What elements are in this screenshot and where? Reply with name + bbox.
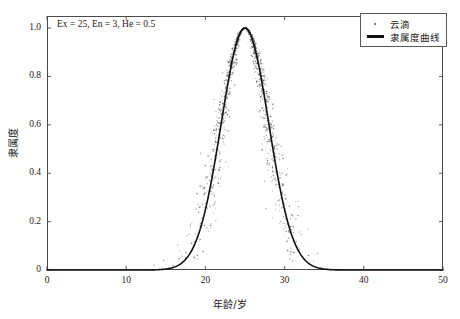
x-tick-label: 0 — [27, 275, 67, 285]
x-axis-title: 年龄/岁 — [0, 296, 460, 311]
line-marker-icon — [365, 35, 385, 37]
chart-canvas — [0, 0, 460, 319]
x-tick-label: 50 — [423, 275, 460, 285]
y-tick-label: 0.8 — [7, 70, 41, 80]
y-tick-label: 1.0 — [7, 22, 41, 32]
y-axis-title: 隶属度 — [5, 113, 20, 173]
cloud-drops-scatter — [153, 27, 334, 269]
legend-label-cloud-drops: 云滴 — [390, 17, 410, 31]
legend-item-membership-curve: 隶属度曲线 — [365, 30, 440, 43]
x-tick-label: 40 — [344, 275, 384, 285]
x-tick-label: 20 — [185, 275, 225, 285]
x-tick-label: 30 — [265, 275, 305, 285]
axis-tick-marks — [47, 16, 443, 270]
x-tick-label: 10 — [106, 275, 146, 285]
y-tick-label: 0.2 — [7, 216, 41, 226]
legend-label-membership-curve: 隶属度曲线 — [390, 30, 440, 44]
legend: 云滴 隶属度曲线 — [360, 13, 447, 47]
membership-curve — [47, 28, 443, 270]
legend-item-cloud-drops: 云滴 — [365, 17, 440, 30]
dot-marker-icon — [365, 23, 385, 25]
y-tick-label: 0 — [7, 264, 41, 274]
parameter-annotation: Ex = 25, En = 3, He = 0.5 — [57, 19, 155, 29]
